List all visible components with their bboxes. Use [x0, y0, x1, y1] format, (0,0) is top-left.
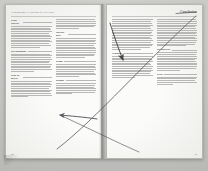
- entry-head: Surface utile.: [56, 31, 67, 37]
- right-page-running-head: Conclusion: [112, 10, 197, 15]
- entry-body: [157, 52, 198, 70]
- entry: Rayonnement.: [11, 50, 52, 72]
- left-page-text-block: Terminologie et notions de référence Poi…: [11, 10, 96, 149]
- right-page-folio: 85: [194, 153, 197, 156]
- right-page-column-2: Perspectives.: [157, 19, 198, 147]
- left-page-column-2: Surface utile.: [56, 19, 97, 147]
- right-page-columns: Synthèse.: [112, 19, 197, 147]
- entry-head: Plan de masse.: [11, 74, 22, 80]
- entry-body: [157, 19, 198, 46]
- entry: Perspectives.: [157, 48, 198, 70]
- entry-body: [11, 54, 52, 72]
- entry-headline: Perspectives.: [157, 48, 198, 51]
- book-spread: Terminologie et notions de référence Poi…: [5, 4, 203, 159]
- text-line: [68, 34, 96, 35]
- entry-head: Module.: [56, 79, 65, 82]
- text-line: [23, 77, 51, 78]
- entry-headline: Point central.: [11, 19, 52, 25]
- entry-body: [56, 38, 97, 58]
- entry: Point central.: [11, 19, 52, 48]
- entry: Surface utile.: [56, 31, 97, 58]
- entry: [157, 19, 198, 46]
- entry: Synthèse.: [112, 52, 153, 78]
- text-line: [28, 51, 51, 52]
- screenshot-root: Terminologie et notions de référence Poi…: [0, 0, 208, 171]
- entry-body: [112, 56, 153, 78]
- left-page-folio: 84: [11, 153, 14, 156]
- text-line: [124, 53, 153, 54]
- entry: [112, 19, 153, 49]
- entry-body: [112, 19, 153, 49]
- text-line: [23, 22, 51, 23]
- right-page-column-1: Synthèse.: [112, 19, 153, 147]
- entry-head: Synthèse.: [112, 52, 123, 55]
- right-page-text-block: Conclusion: [112, 10, 197, 149]
- entry: Module.: [56, 79, 97, 94]
- entry-body: [56, 83, 97, 94]
- text-line: [164, 74, 197, 75]
- text-line: [172, 50, 197, 51]
- left-page: Terminologie et notions de référence Poi…: [5, 4, 102, 159]
- entry-head: Rayonnement.: [11, 50, 27, 53]
- entry-headline: Notes.: [157, 73, 198, 76]
- text-line: [64, 61, 96, 62]
- entry-headline: Surface utile.: [56, 31, 97, 37]
- entry-body: [157, 77, 198, 85]
- text-line: [66, 80, 96, 81]
- entry: Trame.: [56, 60, 97, 77]
- entry-head: Perspectives.: [157, 48, 171, 51]
- entry-headline: Synthèse.: [112, 52, 153, 55]
- left-page-head-rule: [11, 16, 96, 17]
- entry: Plan de masse.: [11, 74, 52, 97]
- entry-body: [56, 19, 97, 29]
- entry-head: Point central.: [11, 19, 22, 25]
- right-page: Conclusion: [106, 4, 203, 159]
- left-page-running-head: Terminologie et notions de référence: [11, 10, 96, 15]
- entry-headline: Module.: [56, 79, 97, 82]
- right-page-head-rule: [112, 16, 197, 17]
- entry-headline: Trame.: [56, 60, 97, 63]
- entry-head: Notes.: [157, 73, 164, 76]
- entry-head: Trame.: [56, 60, 64, 63]
- left-page-column-1: Point central.: [11, 19, 52, 147]
- entry-headline: Rayonnement.: [11, 50, 52, 53]
- entry-body: [56, 64, 97, 77]
- entry-body: [11, 26, 52, 48]
- entry: Notes.: [157, 73, 198, 85]
- entry: [56, 19, 97, 29]
- entry-headline: Plan de masse.: [11, 74, 52, 80]
- left-page-columns: Point central.: [11, 19, 96, 147]
- entry-body: [11, 81, 52, 98]
